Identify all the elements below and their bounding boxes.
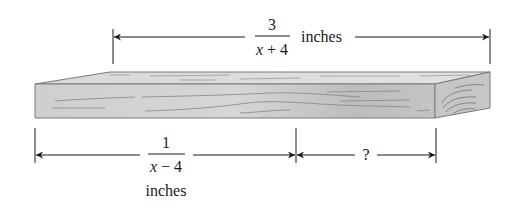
top-unit: inches [301,28,342,45]
bottom-left-denominator: x − 4 [149,158,182,175]
board-diagram: 3 x + 4 inches [0,0,519,216]
top-dimension: 3 x + 4 inches [113,16,490,64]
board-front-face [35,84,435,118]
board-top-face [35,72,490,84]
top-numerator: 3 [268,16,276,33]
wooden-board [35,72,490,118]
top-denominator-var: x [255,41,263,58]
bottom-left-denominator-var: x [149,158,157,175]
top-denominator: x + 4 [255,41,288,58]
bottom-left-unit: inches [146,182,187,199]
bottom-left-numerator: 1 [162,134,170,151]
bottom-right-unknown-label: ? [362,146,369,163]
bottom-dimensions: 1 x − 4 inches ? [35,128,436,199]
bottom-left-denominator-rest: − 4 [157,158,182,175]
top-denominator-rest: + 4 [263,41,288,58]
